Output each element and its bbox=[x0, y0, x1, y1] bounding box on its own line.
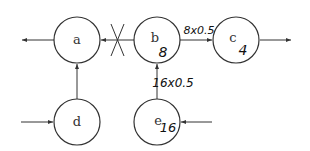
node-d: d bbox=[54, 99, 100, 145]
node-a-label: a bbox=[73, 32, 81, 47]
node-e: e 16 bbox=[134, 99, 180, 145]
edge-e-b-label: 16x0.5 bbox=[152, 76, 193, 90]
node-e-value: 16 bbox=[160, 120, 177, 135]
node-b-label: b bbox=[151, 30, 159, 45]
node-b: b 8 bbox=[134, 17, 180, 63]
node-c-label: c bbox=[229, 30, 236, 45]
graph-diagram: a b 8 c 4 d e 16 8x0.5 16x0.5 bbox=[0, 0, 310, 151]
edge-b-c-label: 8x0.5 bbox=[183, 24, 214, 37]
node-b-value: 8 bbox=[159, 44, 168, 60]
node-d-label: d bbox=[73, 114, 81, 129]
node-a: a bbox=[54, 17, 100, 63]
node-c-value: 4 bbox=[239, 42, 248, 58]
node-c: c 4 bbox=[213, 17, 259, 63]
